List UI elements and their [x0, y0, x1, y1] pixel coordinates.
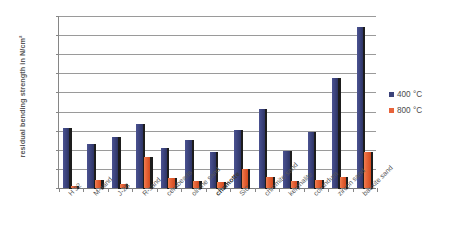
x-tick-mark: [157, 188, 158, 192]
x-tick-mark: [353, 188, 354, 192]
x-tick-mark: [206, 188, 207, 192]
bar: [87, 144, 93, 188]
x-tick-mark: [304, 188, 305, 192]
bar-shadow: [338, 78, 340, 189]
legend-item[interactable]: 800 °C: [389, 104, 449, 116]
x-tick-mark: [328, 188, 329, 192]
x-tick-mark: [83, 188, 84, 192]
x-tick-mark: [59, 188, 60, 192]
x-tick-mark: [255, 188, 256, 192]
bar: [63, 128, 69, 188]
legend-label: 800 °C: [397, 106, 422, 115]
bar: [185, 140, 191, 188]
legend-swatch-icon: [389, 92, 394, 97]
x-tick-mark: [108, 188, 109, 192]
x-tick-mark: [377, 188, 378, 192]
x-tick-mark: [181, 188, 182, 192]
x-tick-mark: [132, 188, 133, 192]
legend-swatch-icon: [389, 108, 394, 113]
bar-chart: residual bending strength in N/cm² 01002…: [0, 0, 453, 244]
legend-label: 400 °C: [397, 90, 422, 99]
bar-shadow: [118, 137, 120, 189]
bar: [161, 148, 167, 189]
x-axis-labels: H 32M-sandJ-2BR-sandcerabeadsolivine san…: [0, 0, 453, 56]
bar: [136, 124, 142, 188]
chart-legend: 400 °C800 °C: [389, 88, 449, 120]
bar-shadow: [69, 128, 71, 189]
x-tick-mark: [230, 188, 231, 192]
bar: [259, 109, 265, 188]
x-tick-mark: [279, 188, 280, 192]
legend-item[interactable]: 400 °C: [389, 88, 449, 100]
